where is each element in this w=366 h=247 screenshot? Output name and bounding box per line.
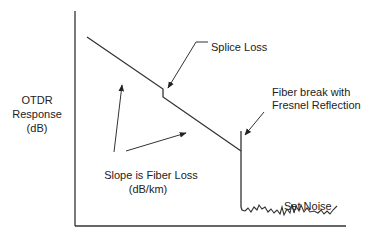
slope-label-line2: (dB/km) <box>129 183 168 195</box>
fiber-break-annotation <box>245 112 264 135</box>
fiber-loss-segment-1 <box>87 37 241 151</box>
slope-arrow-2 <box>126 133 186 151</box>
slope-annotation <box>114 85 186 152</box>
otdr-diagram: OTDR Response (dB) Splice Loss Fiber bre… <box>0 0 366 247</box>
noise-label: Set Noise <box>284 200 332 212</box>
fiber-break-label-line2: Fresnel Reflection <box>272 99 361 111</box>
slope-label-line1: Slope is Fiber Loss <box>104 169 198 181</box>
splice-loss-label: Splice Loss <box>211 41 268 53</box>
fiber-break-leader-line <box>245 112 264 135</box>
fresnel-reflection-spike <box>241 131 245 211</box>
splice-leader-line <box>168 42 208 88</box>
y-axis-label-line2: Response <box>12 108 62 120</box>
slope-arrow-1 <box>114 85 122 152</box>
fiber-break-label-line1: Fiber break with <box>272 86 350 98</box>
y-axis-label-line3: (dB) <box>27 122 48 134</box>
splice-annotation <box>168 42 208 88</box>
y-axis-label-line1: OTDR <box>21 94 52 106</box>
diagram-svg: OTDR Response (dB) Splice Loss Fiber bre… <box>0 0 366 247</box>
otdr-trace <box>87 37 337 215</box>
